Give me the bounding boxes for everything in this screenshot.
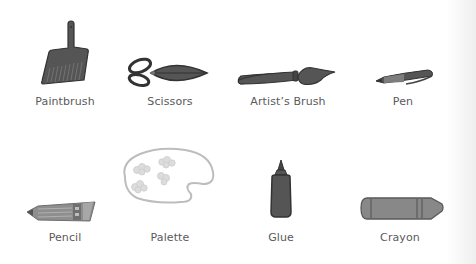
- palette-icon: [115, 132, 225, 222]
- item-artist-brush[interactable]: Artist’s Brush: [233, 0, 343, 120]
- pencil-icon: [10, 132, 120, 222]
- scissors-icon: [115, 0, 225, 90]
- label-glue: Glue: [226, 231, 336, 244]
- glue-icon: [226, 132, 336, 222]
- item-crayon[interactable]: Crayon: [345, 132, 455, 252]
- label-palette: Palette: [115, 231, 225, 244]
- label-pencil: Pencil: [10, 231, 120, 244]
- pen-icon: [348, 0, 458, 90]
- label-artist-brush: Artist’s Brush: [233, 95, 343, 108]
- crayon-icon: [345, 132, 455, 222]
- item-paintbrush[interactable]: Paintbrush: [10, 0, 120, 120]
- label-crayon: Crayon: [345, 231, 455, 244]
- item-glue[interactable]: Glue: [226, 132, 336, 252]
- item-pen[interactable]: Pen: [348, 0, 458, 120]
- label-paintbrush: Paintbrush: [10, 95, 120, 108]
- item-pencil[interactable]: Pencil: [10, 132, 120, 252]
- label-pen: Pen: [348, 95, 458, 108]
- item-palette[interactable]: Palette: [115, 132, 225, 252]
- label-scissors: Scissors: [115, 95, 225, 108]
- item-scissors[interactable]: Scissors: [115, 0, 225, 120]
- paintbrush-icon: [10, 0, 120, 90]
- artist-brush-icon: [233, 0, 343, 90]
